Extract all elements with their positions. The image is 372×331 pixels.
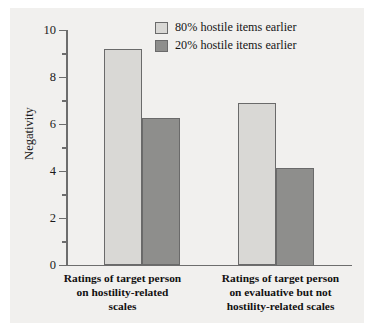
chart-figure: 10 8 6 4 2 0 Negativity Ratings of targe… <box>0 0 372 331</box>
y-axis-title: Negativity <box>22 79 37 189</box>
y-tick-8 <box>59 77 66 79</box>
y-tick-0 <box>59 265 66 267</box>
legend-swatch-icon-series2 <box>155 40 168 52</box>
x-category-label-0-line-0: Ratings of target person <box>40 271 205 285</box>
y-tick-minor-3 <box>62 194 66 196</box>
x-category-label-1-line-1: on evaluative but not <box>198 285 363 299</box>
y-tick-10 <box>59 30 66 32</box>
y-axis-label-0: 0 <box>16 259 56 272</box>
x-category-label-1: Ratings of target person on evaluative b… <box>198 271 363 313</box>
x-category-label-0: Ratings of target person on hostility-re… <box>40 271 205 313</box>
legend-item-1: 20% hostile items earlier <box>155 38 345 53</box>
y-tick-minor-9 <box>62 53 66 55</box>
legend-label-series2: 20% hostile items earlier <box>175 38 297 53</box>
x-category-label-0-line-2: scales <box>40 299 205 313</box>
legend-label-series1: 80% hostile items earlier <box>175 20 297 35</box>
bar-group1-series2 <box>142 118 180 265</box>
y-axis-line <box>66 30 68 266</box>
bar-group2-series1 <box>238 103 276 265</box>
x-category-label-1-line-0: Ratings of target person <box>198 271 363 285</box>
y-axis-label-2: 2 <box>16 212 56 225</box>
y-tick-minor-1 <box>62 241 66 243</box>
y-tick-2 <box>59 218 66 220</box>
y-axis-label-10: 10 <box>16 24 56 37</box>
legend-swatch-icon-series1 <box>155 22 168 34</box>
y-tick-minor-7 <box>62 100 66 102</box>
plot-area: 10 8 6 4 2 0 Negativity Ratings of targe… <box>0 0 372 331</box>
y-tick-minor-5 <box>62 147 66 149</box>
y-tick-4 <box>59 171 66 173</box>
chart-legend: 80% hostile items earlier 20% hostile it… <box>155 20 345 56</box>
bar-group1-series1 <box>104 49 142 266</box>
legend-item-0: 80% hostile items earlier <box>155 20 345 35</box>
x-category-label-1-line-2: hostility-related scales <box>198 299 363 313</box>
bar-group2-series2 <box>276 168 314 266</box>
y-tick-6 <box>59 124 66 126</box>
x-category-label-0-line-1: on hostility-related <box>40 285 205 299</box>
